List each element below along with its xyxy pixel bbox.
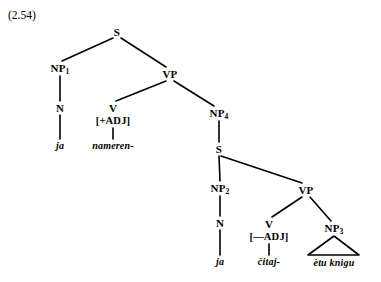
terminal-etu-knigu: ètu knigu xyxy=(314,258,355,268)
branch-s_embedded-to-np2 xyxy=(219,156,220,181)
terminal-etu-knigu-label: ètu knigu xyxy=(314,257,355,268)
node-v-matrix: V xyxy=(109,103,117,114)
node-s-embedded-label: S xyxy=(216,143,222,155)
terminal-citaj: čitaj- xyxy=(258,257,280,267)
terminal-ja-embedded: ja xyxy=(216,257,224,267)
feature-minus-adj-label: [—ADJ] xyxy=(249,231,288,242)
node-np4-subscript: 4 xyxy=(225,112,229,121)
node-vp-embedded: VP xyxy=(298,185,313,196)
branch-vp2-to-v2 xyxy=(272,197,302,217)
node-np3: NP3 xyxy=(324,223,343,234)
node-np4: NP4 xyxy=(209,108,228,119)
terminal-nameren: nameren- xyxy=(92,141,134,151)
branch-s_top-to-np1 xyxy=(62,38,113,61)
branch-s_embedded-to-vp2 xyxy=(221,156,302,183)
node-v-embedded: V xyxy=(265,219,273,230)
terminal-ja-embedded-label: ja xyxy=(216,256,224,267)
feature-plus-adj: [+ADJ] xyxy=(96,116,131,127)
node-vp-matrix-label: VP xyxy=(162,68,177,80)
node-n2: N xyxy=(216,218,224,229)
node-s-matrix-label: S xyxy=(114,26,120,38)
node-np3-subscript: 3 xyxy=(340,227,344,236)
node-np1-label: NP xyxy=(50,62,65,74)
branch-vp1-to-v1 xyxy=(116,81,166,101)
node-s-matrix: S xyxy=(114,27,120,38)
node-n1: N xyxy=(56,103,64,114)
node-np4-label: NP xyxy=(209,107,224,119)
node-np1-subscript: 1 xyxy=(66,67,70,76)
branch-vp1-to-np4 xyxy=(174,81,214,106)
branch-s_top-to-vp1 xyxy=(121,38,166,67)
node-np2-label: NP xyxy=(210,182,225,194)
branch-vp2-to-np3 xyxy=(310,197,331,221)
node-np1: NP1 xyxy=(50,63,69,74)
node-v-matrix-label: V xyxy=(109,102,117,114)
terminal-ja-matrix-label: ja xyxy=(56,140,64,151)
terminal-nameren-label: nameren- xyxy=(92,140,134,151)
node-vp-embedded-label: VP xyxy=(298,184,313,196)
terminal-citaj-label: čitaj- xyxy=(258,256,280,267)
node-n1-label: N xyxy=(56,102,64,114)
np3-triangle-icon xyxy=(308,236,359,255)
syntax-tree-figure: (2.54) S NP1 N ja VP V [+ADJ] nameren- N… xyxy=(0,0,381,282)
node-np2: NP2 xyxy=(210,183,229,194)
terminal-ja-matrix: ja xyxy=(56,141,64,151)
node-s-embedded: S xyxy=(216,144,222,155)
feature-minus-adj: [—ADJ] xyxy=(249,232,288,243)
node-n2-label: N xyxy=(216,217,224,229)
node-vp-matrix: VP xyxy=(162,69,177,80)
node-np3-label: NP xyxy=(324,222,339,234)
node-np2-subscript: 2 xyxy=(226,187,230,196)
feature-plus-adj-label: [+ADJ] xyxy=(96,115,131,126)
node-v-embedded-label: V xyxy=(265,218,273,230)
